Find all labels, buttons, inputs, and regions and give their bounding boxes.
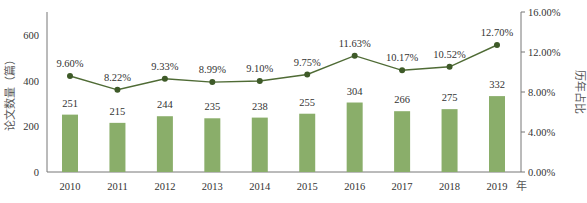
bar-value-label: 266 [394, 94, 410, 105]
bar-value-label: 332 [489, 79, 505, 90]
y-axis-title: 论文数量（篇） [3, 54, 17, 131]
bar-value-label: 215 [110, 106, 126, 117]
bar [204, 118, 220, 172]
x-tick-label: 2016 [344, 181, 365, 192]
x-tick-label: 2013 [202, 181, 223, 192]
bar [62, 115, 78, 172]
line-value-label: 8.22% [104, 72, 131, 83]
line-marker [352, 53, 358, 59]
line-marker [209, 79, 215, 85]
line-marker [304, 72, 310, 78]
y-tick-label: 600 [23, 30, 39, 41]
line-marker [494, 42, 500, 48]
x-tick-label: 2012 [154, 181, 175, 192]
line-value-label: 12.70% [481, 27, 514, 38]
bar-value-label: 235 [204, 101, 220, 112]
line-value-label: 9.75% [294, 57, 321, 68]
y2-tick-label: 0.00% [528, 167, 555, 178]
x-tick-label: 2010 [60, 181, 81, 192]
bar [109, 123, 125, 172]
line-value-label: 10.52% [433, 49, 466, 60]
x-tick-label: 2017 [392, 181, 413, 192]
y2-tick-label: 4.00% [528, 127, 555, 138]
y2-tick-label: 12.00% [528, 47, 561, 58]
y2-axis-title: 历年占比 [573, 70, 587, 114]
line-marker [114, 87, 120, 93]
x-tick-label: 2011 [107, 181, 128, 192]
line-value-label: 11.63% [339, 38, 371, 49]
y2-tick-label: 16.00% [528, 7, 561, 18]
bar [347, 103, 363, 172]
line-value-label: 8.99% [199, 64, 226, 75]
bar-value-label: 238 [252, 101, 268, 112]
line-marker [447, 64, 453, 70]
bar [299, 114, 315, 172]
combo-chart: 02004006000.00%4.00%8.00%12.00%16.00%251… [0, 0, 587, 203]
x-tick-label: 2019 [487, 181, 508, 192]
line-marker [162, 76, 168, 82]
bar-value-label: 255 [299, 97, 315, 108]
bar [394, 111, 410, 172]
bar-value-label: 275 [442, 92, 458, 103]
line-marker [399, 67, 405, 73]
bar [252, 118, 268, 172]
y2-tick-label: 8.00% [528, 87, 555, 98]
y-tick-label: 200 [23, 121, 39, 132]
bar [157, 116, 173, 172]
bar-series [62, 96, 505, 172]
y-tick-label: 0 [34, 167, 39, 178]
bar [442, 109, 458, 172]
x-axis-title: 年 [516, 179, 527, 193]
line-value-label: 9.10% [246, 63, 273, 74]
bar-value-label: 304 [347, 86, 364, 97]
line-value-label: 9.60% [56, 58, 83, 69]
x-tick-label: 2014 [249, 181, 271, 192]
y-tick-label: 400 [23, 76, 39, 87]
bar-value-label: 251 [62, 98, 78, 109]
line-marker [257, 78, 263, 84]
line-value-label: 9.33% [151, 61, 178, 72]
line-marker [67, 73, 73, 79]
line-value-label: 10.17% [386, 52, 419, 63]
bar-value-label: 244 [157, 99, 174, 110]
bar [489, 96, 505, 172]
x-tick-label: 2018 [439, 181, 460, 192]
x-tick-label: 2015 [297, 181, 318, 192]
